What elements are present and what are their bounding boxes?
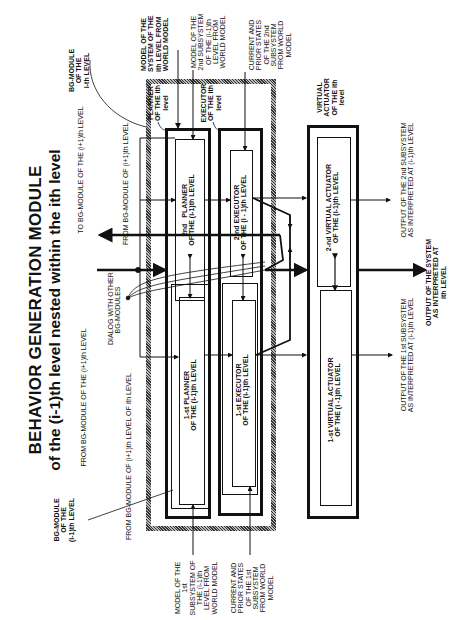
label-virtual-actuator-ith: VIRTUAL ACTUATOR OF THE ith level [316, 75, 345, 120]
label-model-2nd-subsystem: MODEL OF THE 2nd SUBSYSTEM OF THE (i-1)t… [190, 12, 227, 72]
label-to-bg-module-i-plus-1: TO BG-MODULE OF THE (i+1)th LEVEL [77, 95, 84, 245]
label-current-prior-2nd: CURRENT AND PRIOR STATES OF THE 2nd SUBS… [248, 15, 292, 75]
actuator-2nd-label: 2-nd VIRTUAL ACTUATOR OF THE (i-1)th LEV… [325, 150, 340, 265]
label-output-1st-subsystem: OUTPUT OF THE 1st SUBSYSTEM AS INTERPRET… [400, 295, 415, 415]
label-output-2nd-subsystem: OUTPUT OF THE 2nd SUBSYSTEM AS INTERPRET… [400, 120, 415, 240]
label-current-prior-1st: CURRENT AND PRIOR STATES OF THE 1st SUBS… [230, 558, 274, 618]
label-dialog-other-bg-modules: DIALOG WITH OTHER BG-MODULES [107, 275, 122, 345]
label-bg-module-i-minus-1: BG-MODULE OF THE (i-1)th LEVEL [53, 495, 75, 545]
executor-2nd-label: 2-nd EXECUTOR OF THE (i - 1)th LEVEL [233, 160, 248, 265]
executor-1st-label: 1-st EXECUTOR OF THE (i-1)th LEVEL [235, 335, 250, 445]
planner-1st-label: 1-st PLANNER OF THE (i-1)th LEVEL [183, 335, 198, 455]
actuator-1st-label: 1-st VIRTUAL ACTUATOR OF THE (i -1)th LE… [327, 340, 342, 460]
label-executor-ith: EXECUTOR OF THE ith level [200, 82, 222, 124]
label-planner-ith: PLANNER OF THE ith level [147, 82, 169, 124]
label-output-system: OUTPUT OF THE SYSTEM AS INTERPRETED AT i… [425, 235, 447, 330]
label-from-bg-module-i-plus-1-mid: FROM BG-MODULE OF THE (i+1)th LEVEL [80, 310, 87, 485]
label-from-bg-module-i-plus-1-low: FROM BG-MODULE OF (i+1)th LEVEL OF ith L… [125, 295, 132, 540]
label-model-system-ith: MODEL OF THE SYSTEM OF THE ith LEVEL FRO… [140, 17, 169, 72]
label-from-bg-module-i-plus-1-top: FROM BG-MODULE OF (i+1)th LEVEL [122, 135, 129, 245]
label-model-1st-subsystem: MODEL OF THE 1st SUBSYSTEM OF THE (i-1)t… [174, 558, 218, 618]
label-bg-module-ith: BG-MODULE OF THE i-th LEVEL [68, 48, 90, 93]
planner-2nd-label: 2nd PLANNER OF THE (i-1)th LEVEL [181, 155, 196, 265]
